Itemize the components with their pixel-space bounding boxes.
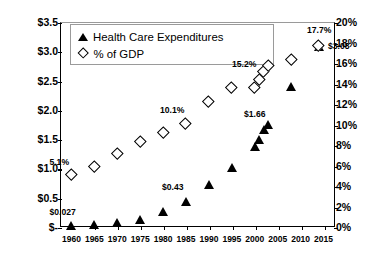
filled-triangle-icon <box>254 135 264 144</box>
legend-entry-gdp: % of GDP <box>78 46 144 61</box>
legend-label-expenditures: Health Care Expenditures <box>93 31 223 43</box>
y-axis-left-tick-mark <box>58 52 62 53</box>
y-axis-right-tick-mark <box>334 126 338 127</box>
x-axis-tick-mark <box>256 226 257 230</box>
data-label: 17.7% <box>307 26 331 35</box>
y-axis-left-tick-mark <box>58 23 62 24</box>
health-care-expenditures-chart: Health Care Expenditures (Trillions) % o… <box>0 0 390 272</box>
y-axis-right-tick-mark <box>334 146 338 147</box>
y-axis-left-tick-mark <box>58 199 62 200</box>
y-axis-left-tick-mark <box>58 140 62 141</box>
x-axis-tick-mark <box>210 226 211 230</box>
y-axis-right-tick-mark <box>334 85 338 86</box>
legend-label-gdp: % of GDP <box>93 48 144 60</box>
y-axis-right-tick-mark <box>334 208 338 209</box>
y-axis-right-tick-mark <box>334 64 338 65</box>
x-axis-tick-mark <box>187 226 188 230</box>
y-axis-left-tick-mark <box>58 228 62 229</box>
y-axis-right-tick-mark <box>334 105 338 106</box>
filled-triangle-icon <box>181 197 191 206</box>
filled-triangle-icon <box>135 215 145 224</box>
x-axis-tick-mark <box>279 226 280 230</box>
y-axis-left-tick-mark <box>58 82 62 83</box>
y-axis-right-tick-mark <box>334 167 338 168</box>
x-axis-tick-mark <box>233 226 234 230</box>
x-axis-tick-mark <box>325 226 326 230</box>
y-axis-left-tick-mark <box>58 111 62 112</box>
x-axis-tick-mark <box>164 226 165 230</box>
data-label: 15.2% <box>232 60 256 69</box>
filled-triangle-icon <box>66 221 76 230</box>
x-axis-tick-label: 2015 <box>309 235 339 244</box>
filled-triangle-icon <box>78 33 88 41</box>
data-label: 5.1% <box>49 158 69 167</box>
data-label: $3.08 <box>328 42 350 51</box>
filled-triangle-icon <box>89 220 99 229</box>
y-axis-right-tick-mark <box>334 228 338 229</box>
y-axis-right-tick-mark <box>334 23 338 24</box>
data-label: $1.66 <box>244 110 266 119</box>
x-axis-tick-mark <box>302 226 303 230</box>
filled-triangle-icon <box>263 120 273 129</box>
legend-entry-expenditures: Health Care Expenditures <box>78 29 223 44</box>
filled-triangle-icon <box>158 207 168 216</box>
filled-triangle-icon <box>204 180 214 189</box>
filled-triangle-icon <box>286 82 296 91</box>
filled-triangle-icon <box>112 218 122 227</box>
y-axis-left-tick-mark <box>58 169 62 170</box>
y-axis-right-tick-mark <box>334 187 338 188</box>
x-axis-tick-mark <box>141 226 142 230</box>
open-diamond-icon <box>77 48 89 60</box>
data-label: $0.027 <box>49 208 75 217</box>
filled-triangle-icon <box>227 163 237 172</box>
data-label: $0.43 <box>162 183 184 192</box>
data-label: 10.1% <box>160 106 184 115</box>
